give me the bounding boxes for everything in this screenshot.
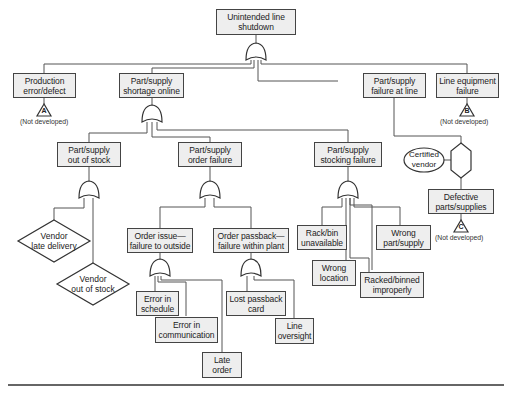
or-gate-passback xyxy=(241,259,261,276)
node-wrong-location: Wrong location xyxy=(312,260,356,286)
label-vendor-out: Vendor out of stock xyxy=(63,274,123,294)
or-gate-out-of-stock xyxy=(79,181,99,198)
label-vendor-late: Vendor late delivery xyxy=(24,231,84,251)
node-error-communication: Error in communication xyxy=(155,317,218,343)
node-order-issue: Order issue— failure to outside xyxy=(127,228,193,253)
node-defective-parts: Defective parts/supplies xyxy=(428,189,494,214)
node-line-oversight: Line oversight xyxy=(275,318,314,344)
node-production-error: Production error/defect xyxy=(13,73,76,98)
not-developed-b: (Not developed) xyxy=(440,118,488,125)
label-certified-vendor: Certified vendor xyxy=(404,150,444,170)
node-order-passback: Order passback— failure within plant xyxy=(213,228,289,253)
transfer-label-c: C xyxy=(456,223,466,230)
node-racked-binned: Racked/binned improperly xyxy=(360,272,424,298)
or-gate-shortage xyxy=(142,105,162,122)
top-event-box: Unintended line shutdown xyxy=(216,9,296,35)
transfer-label-b: B xyxy=(462,107,472,114)
node-order-failure: Part/supply order failure xyxy=(178,142,242,167)
node-rack-bin: Rack/bin unavailable xyxy=(297,225,347,250)
or-gate-order-failure xyxy=(200,181,220,198)
not-developed-a: (Not developed) xyxy=(20,118,68,125)
node-late-order: Late order xyxy=(202,352,242,378)
node-out-of-stock: Part/supply out of stock xyxy=(57,142,121,167)
inhibit-gate-hexagon xyxy=(451,143,471,178)
or-gate-top xyxy=(246,43,266,60)
or-gate-stocking xyxy=(338,181,358,198)
or-gate-order-issue xyxy=(150,259,170,276)
node-failure-at-line: Part/supply failure at line xyxy=(363,73,426,98)
node-shortage-online: Part/supply shortage online xyxy=(119,73,184,98)
transfer-label-a: A xyxy=(39,107,49,114)
node-lost-passback: Lost passback card xyxy=(226,291,286,316)
node-stocking-failure: Part/supply stocking failure xyxy=(314,142,382,167)
not-developed-c: (Not developed) xyxy=(435,234,483,241)
node-line-equipment: Line equipment failure xyxy=(436,73,499,98)
node-error-schedule: Error in schedule xyxy=(136,291,179,316)
node-wrong-part: Wrong part/supply xyxy=(376,225,431,250)
